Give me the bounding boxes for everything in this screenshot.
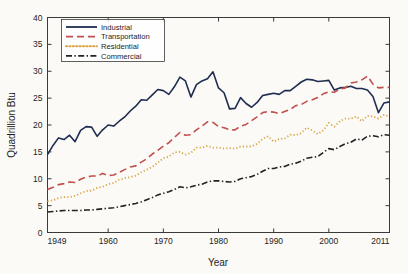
legend-label-industrial: Industrial [101, 23, 132, 32]
energy-consumption-line-chart: 0510152025303540 19491960197019801990200… [0, 0, 408, 274]
y-tick-label: 20 [33, 120, 43, 130]
x-tick-label: 1980 [209, 236, 228, 246]
y-tick-label: 35 [33, 39, 43, 49]
y-tick-label: 30 [33, 66, 43, 76]
y-tick-label: 40 [33, 13, 43, 23]
x-tick-label: 1990 [264, 236, 283, 246]
legend-label-transportation: Transportation [101, 32, 150, 41]
x-tick-label: 1949 [48, 236, 67, 246]
x-tick-label: 1960 [99, 236, 118, 246]
y-tick-label: 5 [38, 201, 43, 211]
legend-label-commercial: Commercial [101, 52, 142, 61]
chart-figure: 0510152025303540 19491960197019801990200… [0, 0, 408, 274]
legend-label-residential: Residential [101, 42, 139, 51]
x-tick-label: 1970 [154, 236, 173, 246]
x-tick-label: 2000 [319, 236, 338, 246]
x-axis-title: Year [208, 257, 229, 268]
x-tick-label: 2011 [371, 236, 390, 246]
y-tick-label: 10 [33, 174, 43, 184]
y-tick-label: 25 [33, 93, 43, 103]
chart-legend: IndustrialTransportationResidentialComme… [62, 20, 165, 62]
y-axis-title: Quadrillion Btu [6, 92, 17, 158]
y-tick-label: 0 [38, 228, 43, 238]
y-tick-label: 15 [33, 147, 43, 157]
